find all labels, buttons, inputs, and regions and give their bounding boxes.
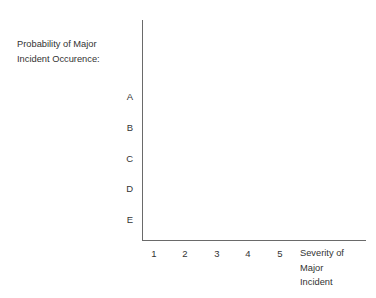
y-tick-label-c: C bbox=[109, 154, 133, 164]
x-tick-label-2: 2 bbox=[178, 249, 192, 259]
y-axis-title: Probability of Major Incident Occurence: bbox=[17, 37, 139, 67]
x-axis-title: Severity of Major Incident bbox=[300, 246, 374, 290]
x-tick-label-1: 1 bbox=[147, 249, 161, 259]
y-tick-label-a: A bbox=[109, 92, 133, 102]
risk-matrix-chart: Probability of Major Incident Occurence:… bbox=[0, 0, 376, 298]
x-axis-line bbox=[142, 240, 366, 241]
x-tick-label-4: 4 bbox=[241, 249, 255, 259]
y-tick-label-e: E bbox=[109, 215, 133, 225]
x-tick-label-3: 3 bbox=[210, 249, 224, 259]
x-tick-label-5: 5 bbox=[273, 249, 287, 259]
y-tick-label-d: D bbox=[109, 184, 133, 194]
plot-area bbox=[143, 20, 366, 240]
y-tick-label-b: B bbox=[109, 123, 133, 133]
